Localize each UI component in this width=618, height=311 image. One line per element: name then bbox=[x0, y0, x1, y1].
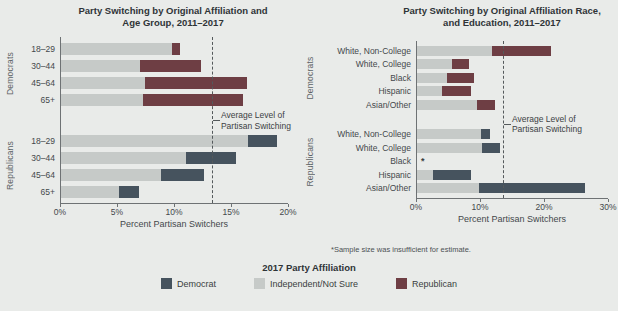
bar-segment-independent bbox=[417, 143, 482, 153]
bar-segment-republican bbox=[477, 100, 495, 110]
bar-segment-democrat bbox=[119, 186, 139, 198]
x-tick-label: 5% bbox=[111, 207, 123, 217]
row-label: 30–44 bbox=[20, 149, 60, 166]
bar-segment-democrat bbox=[248, 135, 276, 147]
x-tick-label: 20% bbox=[535, 202, 552, 212]
bar-segment-republican bbox=[145, 77, 247, 89]
legend-label: Democrat bbox=[177, 279, 216, 289]
x-tick-label: 10% bbox=[165, 207, 182, 217]
bar-segment-republican bbox=[492, 46, 551, 56]
x-tick-label: 10% bbox=[471, 202, 488, 212]
row-label-block: White, Non-CollegeWhite, CollegeBlackHis… bbox=[320, 128, 416, 196]
row-label: Black bbox=[320, 155, 416, 169]
bar-segment-independent bbox=[417, 129, 481, 139]
bar-segment-republican bbox=[143, 94, 243, 106]
annotation-line: Partisan Switching bbox=[221, 121, 291, 132]
annotation-connector bbox=[504, 124, 511, 125]
row-label: 45–64 bbox=[20, 166, 60, 183]
row-label: 18–29 bbox=[20, 40, 60, 57]
democrat-swatch-icon bbox=[161, 278, 172, 289]
title-line: Age Group, 2011–2017 bbox=[59, 17, 287, 29]
bar-segment-independent bbox=[61, 152, 186, 164]
plot-wrap: Average Level ofPartisan Switching 0%5%1… bbox=[60, 37, 288, 229]
row-label-block: White, Non-CollegeWhite, CollegeBlackHis… bbox=[320, 44, 416, 112]
bar-segment-independent bbox=[417, 170, 433, 180]
plot-wrap: *Average Level ofPartisan Switching 0%10… bbox=[416, 41, 608, 224]
chart-area: DemocratsRepublicans 18–2930–4445–6465+1… bbox=[5, 37, 303, 229]
bar-segment-republican bbox=[442, 86, 471, 96]
bar-row bbox=[417, 44, 608, 58]
average-switching-line bbox=[503, 41, 504, 198]
bar-segment-republican bbox=[447, 73, 474, 83]
group-label: Democrats bbox=[305, 44, 315, 112]
bar-segment-republican bbox=[172, 43, 180, 55]
bar-group-block bbox=[61, 40, 288, 108]
bar-row bbox=[417, 98, 608, 112]
row-label: Asian/Other bbox=[320, 98, 416, 112]
x-tick-label: 30% bbox=[599, 202, 616, 212]
bar-segment-democrat bbox=[482, 143, 500, 153]
bar-segment-independent bbox=[61, 77, 145, 89]
row-label: White, College bbox=[320, 58, 416, 72]
legend-item-independent: Independent/Not Sure bbox=[254, 278, 358, 289]
row-label-block: 18–2930–4445–6465+ bbox=[20, 132, 60, 200]
x-tick-label: 15% bbox=[222, 207, 239, 217]
row-label-block: 18–2930–4445–6465+ bbox=[20, 40, 60, 108]
bar-row bbox=[61, 91, 288, 108]
race-education-chart-title: Party Switching by Original Affiliation … bbox=[395, 5, 609, 28]
bar-segment-independent bbox=[417, 183, 479, 193]
bar-segment-democrat bbox=[433, 170, 471, 180]
bar-group-block bbox=[417, 44, 608, 112]
average-line-annotation: Average Level ofPartisan Switching bbox=[512, 114, 582, 135]
age-chart-panel: Party Switching by Original Affiliation … bbox=[5, 5, 303, 229]
bar-segment-republican bbox=[452, 59, 469, 69]
bar-segment-democrat bbox=[161, 169, 204, 181]
chart-area: DemocratsRepublicans White, Non-CollegeW… bbox=[305, 41, 615, 224]
x-tick-label: 20% bbox=[279, 207, 296, 217]
republican-swatch-icon bbox=[396, 278, 407, 289]
legend-item-republican: Republican bbox=[396, 278, 457, 289]
bar-row bbox=[61, 40, 288, 57]
x-tick-label: 0% bbox=[54, 207, 66, 217]
sample-size-footnote: *Sample size was insufficient for estima… bbox=[331, 245, 471, 254]
title-line: Party Switching by Original Affiliation … bbox=[395, 5, 609, 17]
bar-segment-independent bbox=[417, 46, 492, 56]
bar-row bbox=[61, 166, 288, 183]
legend-label: Independent/Not Sure bbox=[270, 279, 358, 289]
row-label: 65+ bbox=[20, 183, 60, 200]
bar-segment-republican bbox=[140, 60, 200, 72]
bar-segment-independent bbox=[417, 86, 442, 96]
group-label-col: DemocratsRepublicans bbox=[305, 41, 320, 195]
bar-segment-democrat bbox=[186, 152, 236, 164]
bar-row bbox=[417, 58, 608, 72]
bar-segment-independent bbox=[61, 169, 161, 181]
race-education-chart-panel: Party Switching by Original Affiliation … bbox=[305, 5, 615, 224]
bar-row bbox=[417, 71, 608, 85]
bar-segment-independent bbox=[417, 100, 477, 110]
title-line: Party Switching by Original Affiliation … bbox=[59, 5, 287, 17]
bar-row bbox=[61, 132, 288, 149]
row-label: Hispanic bbox=[320, 168, 416, 182]
annotation-line: Partisan Switching bbox=[512, 124, 582, 135]
bar-row bbox=[61, 183, 288, 200]
annotation-line: Average Level of bbox=[221, 110, 291, 121]
group-label-col: DemocratsRepublicans bbox=[5, 37, 20, 200]
bar-row bbox=[417, 141, 608, 155]
bar-segment-independent bbox=[61, 135, 248, 147]
bar-segment-independent bbox=[61, 186, 119, 198]
x-axis-label: Percent Partisan Switchers bbox=[416, 214, 608, 224]
row-label: 30–44 bbox=[20, 57, 60, 74]
row-label: Asian/Other bbox=[320, 182, 416, 196]
annotation-connector bbox=[213, 120, 220, 121]
figure-party-switching: Party Switching by Original Affiliation … bbox=[0, 0, 618, 311]
legend: 2017 Party Affiliation Democrat Independ… bbox=[0, 262, 618, 293]
row-label: White, College bbox=[320, 141, 416, 155]
bar-row: * bbox=[417, 155, 608, 169]
bar-segment-democrat bbox=[479, 183, 585, 193]
row-label: White, Non-College bbox=[320, 128, 416, 142]
bar-segment-independent bbox=[61, 43, 172, 55]
group-label: Republicans bbox=[305, 128, 315, 196]
legend-label: Republican bbox=[412, 279, 457, 289]
row-label: 18–29 bbox=[20, 132, 60, 149]
bar-row bbox=[61, 57, 288, 74]
